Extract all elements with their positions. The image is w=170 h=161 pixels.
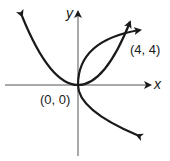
- upward-parabola-curve: [22, 16, 130, 85]
- x-axis-label: x: [153, 76, 162, 92]
- parabolas-diagram: y x (0, 0) (4, 4): [0, 0, 170, 161]
- intersection-point-label: (4, 4): [130, 42, 160, 57]
- y-axis-label: y: [65, 5, 74, 21]
- origin-point-label: (0, 0): [40, 92, 70, 107]
